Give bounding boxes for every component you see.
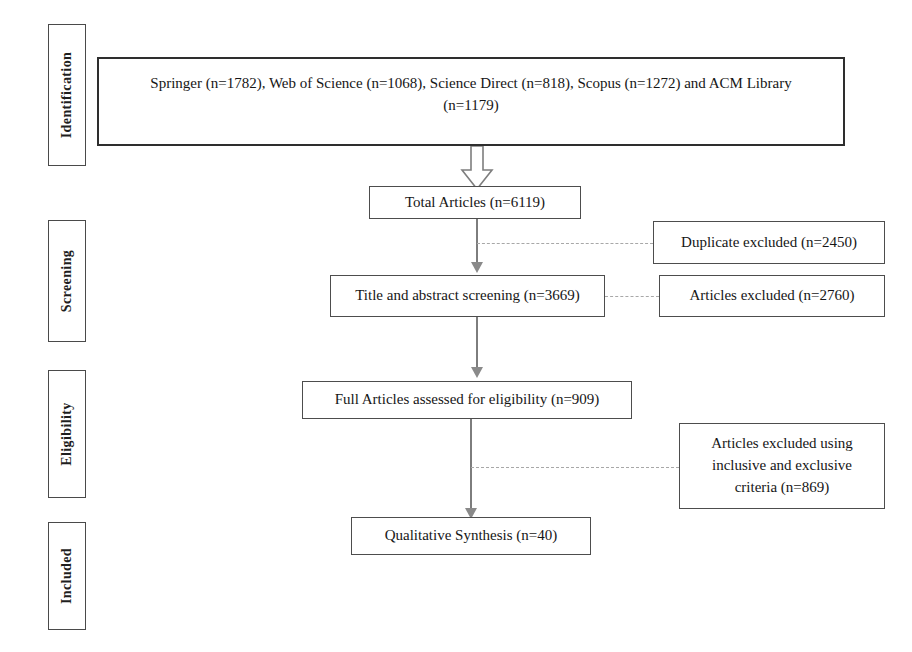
connector-total-to-screening-arrowhead: [471, 262, 483, 273]
stage-box-identification: Identification: [48, 24, 86, 166]
stage-box-eligibility: Eligibility: [48, 370, 86, 498]
box-total-articles-text: Total Articles (n=6119): [378, 192, 572, 214]
box-title-abstract-screening-text: Title and abstract screening (n=3669): [339, 285, 596, 307]
box-qualitative-synthesis-text: Qualitative Synthesis (n=40): [360, 525, 582, 547]
stage-label-identification: Identification: [59, 52, 75, 139]
box-articles-excluded-text: Articles excluded (n=2760): [668, 285, 876, 307]
box-title-abstract-screening: Title and abstract screening (n=3669): [330, 275, 605, 317]
box-qualitative-synthesis: Qualitative Synthesis (n=40): [351, 517, 591, 555]
stage-label-included: Included: [59, 548, 75, 604]
box-articles-excluded: Articles excluded (n=2760): [659, 275, 885, 317]
box-full-articles-eligibility-text: Full Articles assessed for eligibility (…: [311, 389, 623, 411]
stage-box-included: Included: [48, 522, 86, 630]
stage-label-eligibility: Eligibility: [59, 402, 75, 466]
connector-screening-to-full-articles-arrowhead: [471, 367, 483, 378]
connector-excluded-criteria-dashed: [471, 467, 679, 468]
box-excluded-criteria-line1: Articles excluded using: [711, 435, 853, 451]
box-excluded-criteria-line3: criteria (n=869): [735, 479, 830, 495]
box-total-articles: Total Articles (n=6119): [369, 186, 581, 219]
stage-box-screening: Screening: [48, 220, 86, 342]
connector-articles-excluded-dashed: [605, 296, 659, 297]
connector-full-articles-to-synthesis: [470, 419, 472, 517]
box-sources: Springer (n=1782), Web of Science (n=106…: [97, 57, 845, 146]
box-duplicate-excluded-text: Duplicate excluded (n=2450): [662, 232, 876, 254]
stage-label-screening: Screening: [59, 250, 75, 312]
connector-duplicate-excluded-dashed: [477, 243, 653, 244]
box-duplicate-excluded: Duplicate excluded (n=2450): [653, 221, 885, 264]
prisma-flow-diagram: Identification Screening Eligibility Inc…: [0, 0, 912, 652]
box-sources-line1: Springer (n=1782), Web of Science (n=106…: [150, 75, 791, 91]
box-excluded-criteria: Articles excluded using inclusive and ex…: [679, 423, 885, 509]
box-sources-line2: (n=1179): [443, 97, 498, 113]
box-excluded-criteria-line2: inclusive and exclusive: [712, 457, 852, 473]
box-full-articles-eligibility: Full Articles assessed for eligibility (…: [302, 381, 632, 419]
block-arrow-down-icon: [460, 146, 494, 190]
